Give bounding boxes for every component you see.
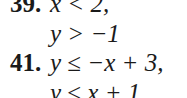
exercise-number: 41. <box>10 50 41 75</box>
exercise-number: 39. <box>10 0 41 16</box>
inequality: y ≤ −x + 3, <box>50 50 163 75</box>
inequality: y > −1 <box>50 21 120 46</box>
inequality: x < 2, <box>50 0 109 16</box>
inequality: y ≤ x + 1 <box>50 80 140 98</box>
